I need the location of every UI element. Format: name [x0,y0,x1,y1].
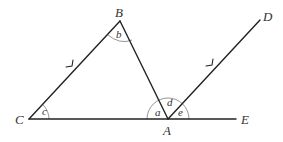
point-label-c: C [15,112,24,127]
angle-label-e: e [178,106,183,118]
segments [29,20,260,119]
parallel-arrow-icon-ad [206,59,213,66]
segment-ba [120,21,168,119]
angle-label-b: b [116,28,122,40]
geometry-diagram: B C A D E b c a d e [0,0,283,142]
angle-label-c: c [42,105,47,117]
diagram-canvas: B C A D E b c a d e [0,0,283,142]
angle-label-a: a [155,106,161,118]
point-label-b: B [115,5,123,20]
angle-label-d: d [167,96,173,108]
parallel-arrow-icon-cb [66,60,73,67]
point-label-d: D [262,9,273,24]
point-label-a: A [162,123,171,138]
point-label-e: E [240,112,249,127]
segment-ad [168,20,260,119]
